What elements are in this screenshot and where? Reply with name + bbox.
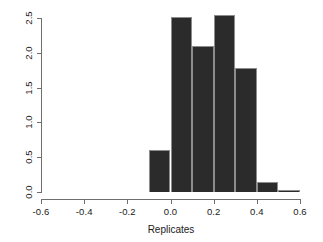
y-tick-label: 2.5 — [23, 11, 34, 25]
y-tick-mark — [37, 53, 41, 54]
x-tick-mark — [84, 200, 85, 204]
y-tick-label: 1.5 — [23, 81, 34, 95]
x-tick-label: 0.6 — [293, 206, 307, 217]
y-axis-line — [41, 18, 42, 193]
y-tick-label: 2.0 — [23, 46, 34, 60]
x-tick-mark — [127, 200, 128, 204]
x-tick-label: -0.6 — [33, 206, 50, 217]
x-tick-mark — [171, 200, 172, 204]
histogram-figure: -0.6-0.4-0.20.00.20.40.6 0.00.51.01.52.0… — [0, 0, 323, 242]
x-tick-mark — [214, 200, 215, 204]
y-tick-mark — [37, 157, 41, 158]
y-tick-mark — [37, 122, 41, 123]
y-tick-mark — [37, 88, 41, 89]
x-tick-label: 0.4 — [250, 206, 264, 217]
x-tick-label: -0.4 — [76, 206, 93, 217]
y-tick-label: 0.5 — [23, 150, 34, 164]
histogram-bar — [257, 182, 279, 192]
x-tick-mark — [300, 200, 301, 204]
y-tick-label: 1.0 — [23, 116, 34, 130]
x-axis-title: Replicates — [148, 224, 195, 235]
histogram-bar — [192, 46, 214, 192]
y-tick-mark — [37, 192, 41, 193]
x-tick-label: 0.2 — [207, 206, 221, 217]
histogram-bar — [171, 17, 193, 192]
histogram-bar — [149, 150, 171, 192]
plot-area: -0.6-0.4-0.20.00.20.40.6 0.00.51.01.52.0… — [0, 0, 323, 242]
histogram-bar — [235, 68, 257, 192]
x-tick-mark — [41, 200, 42, 204]
x-tick-mark — [257, 200, 258, 204]
x-tick-label: -0.2 — [119, 206, 136, 217]
x-tick-label: 0.0 — [164, 206, 178, 217]
y-tick-mark — [37, 18, 41, 19]
histogram-bar — [214, 15, 236, 192]
histogram-bar — [278, 190, 300, 192]
y-tick-label: 0.0 — [23, 185, 34, 199]
